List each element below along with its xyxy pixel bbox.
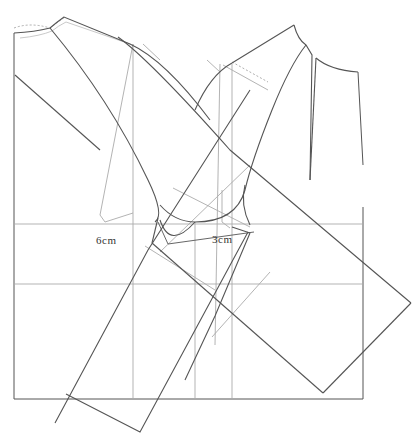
- front-bodice: [15, 25, 411, 393]
- construction-lines: [158, 222, 254, 244]
- bodice-block: [14, 33, 363, 399]
- pattern-diagram: [0, 0, 416, 441]
- front-armhole-measure-label: 3cm: [212, 233, 232, 245]
- back-armhole-measure-label: 6cm: [96, 234, 116, 246]
- back-raglan-sleeve: [14, 17, 250, 432]
- seam-allowance-lines: [20, 22, 130, 44]
